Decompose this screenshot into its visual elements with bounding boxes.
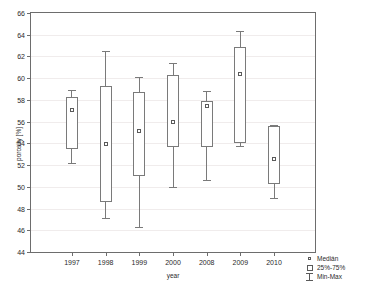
y-axis-tick-label: 60: [17, 75, 25, 82]
y-gridline: [31, 56, 315, 57]
x-axis-title: year: [30, 272, 316, 279]
x-axis-tick-label: 2008: [199, 259, 215, 267]
cap-max: [169, 63, 177, 64]
whisker-lower: [173, 147, 174, 187]
whisker-upper: [206, 91, 207, 101]
whisker-lower: [139, 176, 140, 227]
whisker-upper: [240, 31, 241, 46]
y-axis-tick-label: 64: [17, 31, 25, 38]
x-axis-tick: [240, 252, 241, 256]
median-marker: [70, 108, 74, 112]
median-marker: [205, 104, 209, 108]
cap-min: [236, 146, 244, 147]
y-axis-tick: [27, 165, 31, 166]
box-marker-icon: [304, 263, 315, 272]
quartile-box: [133, 92, 145, 176]
y-gridline: [31, 209, 315, 210]
cap-max: [203, 91, 211, 92]
y-axis-tick-label: 52: [17, 162, 25, 169]
whisker-lower: [71, 149, 72, 163]
legend-item-minmax: Min-Max: [304, 272, 345, 281]
legend-label-median: Medián: [317, 254, 338, 263]
whisker-upper: [139, 77, 140, 92]
x-axis-tick: [72, 252, 73, 256]
y-axis-tick: [27, 13, 31, 14]
x-axis-tick: [207, 252, 208, 256]
whisker-lower: [105, 202, 106, 218]
quartile-box: [234, 47, 246, 144]
y-gridline: [31, 230, 315, 231]
legend-label-minmax: Min-Max: [317, 272, 342, 281]
y-axis-tick: [27, 56, 31, 57]
y-axis-tick-label: 66: [17, 10, 25, 17]
x-axis-tick: [274, 252, 275, 256]
cap-max: [135, 77, 143, 78]
y-axis-tick-label: 58: [17, 96, 25, 103]
y-axis-tick-label: 44: [17, 249, 25, 256]
y-axis-tick-label: 62: [17, 53, 25, 60]
y-axis-tick-label: 50: [17, 183, 25, 190]
y-axis-tick-label: 48: [17, 205, 25, 212]
y-axis-tick: [27, 100, 31, 101]
y-axis-tick-label: 54: [17, 140, 25, 147]
cap-max: [236, 31, 244, 32]
box-plot-chart: porosity [%] 444648505254565860626466199…: [0, 0, 371, 288]
whisker-upper: [173, 63, 174, 75]
cap-max: [68, 90, 76, 91]
cap-max: [102, 51, 110, 52]
cap-min: [68, 163, 76, 164]
median-marker: [238, 72, 242, 76]
x-axis-tick: [139, 252, 140, 256]
x-axis-tick-label: 2000: [165, 259, 181, 267]
x-axis-tick-label: 1997: [64, 259, 80, 267]
x-axis-tick-label: 1999: [132, 259, 148, 267]
y-axis-tick: [27, 230, 31, 231]
x-axis-tick: [106, 252, 107, 256]
legend-item-median: Medián: [304, 254, 345, 263]
y-axis-tick: [27, 78, 31, 79]
whisker-lower: [206, 147, 207, 181]
whisker-lower: [274, 184, 275, 198]
y-gridline: [31, 35, 315, 36]
quartile-box: [268, 126, 280, 184]
y-axis-tick: [27, 122, 31, 123]
y-axis-tick: [27, 143, 31, 144]
y-axis-tick: [27, 187, 31, 188]
y-axis-tick: [27, 252, 31, 253]
median-marker-icon: [304, 254, 315, 263]
legend-label-quartiles: 25%-75%: [317, 263, 345, 272]
cap-min: [270, 198, 278, 199]
cap-min: [169, 187, 177, 188]
median-marker: [137, 129, 141, 133]
quartile-box: [66, 97, 78, 149]
cap-min: [203, 180, 211, 181]
whisker-upper: [105, 51, 106, 86]
quartile-box: [167, 75, 179, 147]
y-axis-tick-label: 46: [17, 227, 25, 234]
cap-min: [102, 218, 110, 219]
minmax-marker-icon: [304, 272, 315, 281]
median-marker: [104, 142, 108, 146]
y-axis-tick-label: 56: [17, 118, 25, 125]
x-axis-tick: [173, 252, 174, 256]
x-axis-tick-label: 1998: [98, 259, 114, 267]
cap-min: [135, 227, 143, 228]
y-axis-tick: [27, 35, 31, 36]
legend-item-quartiles: 25%-75%: [304, 263, 345, 272]
chart-legend: Medián 25%-75% Min-Max: [304, 254, 345, 281]
median-marker: [272, 157, 276, 161]
y-axis-tick: [27, 209, 31, 210]
plot-area: 4446485052545658606264661997199819992000…: [30, 12, 316, 253]
x-axis-tick-label: 2010: [266, 259, 282, 267]
x-axis-tick-label: 2009: [233, 259, 249, 267]
median-marker: [171, 120, 175, 124]
